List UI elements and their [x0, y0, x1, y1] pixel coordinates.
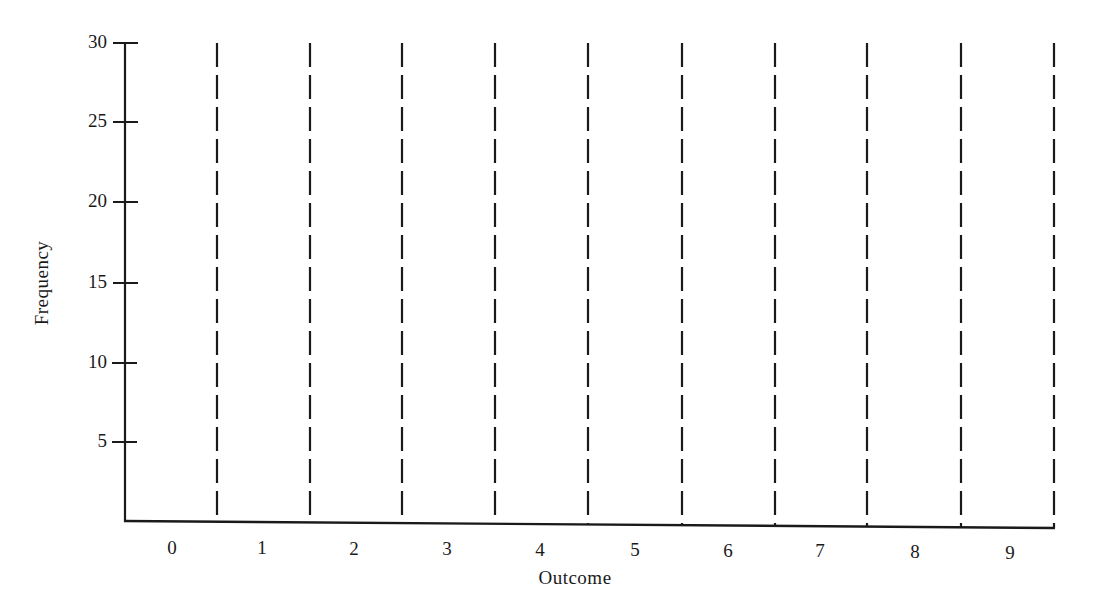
x-axis-line — [124, 521, 1055, 528]
x-tick-label-6: 6 — [713, 541, 743, 561]
y-tick-label-15: 15 — [67, 272, 107, 292]
x-tick-label-0: 0 — [157, 538, 187, 558]
x-tick-label-4: 4 — [525, 540, 555, 560]
y-tick-label-10: 10 — [67, 352, 107, 372]
chart-plot-area — [0, 0, 1094, 613]
x-tick-label-1: 1 — [247, 538, 277, 558]
y-tick-label-30: 30 — [67, 32, 107, 52]
x-tick-label-3: 3 — [432, 539, 462, 559]
bin-separator-lines — [217, 43, 1054, 528]
y-tick-label-20: 20 — [67, 191, 107, 211]
x-tick-label-8: 8 — [900, 542, 930, 562]
x-tick-label-9: 9 — [995, 543, 1025, 563]
x-tick-label-5: 5 — [620, 540, 650, 560]
y-tick-label-5: 5 — [67, 431, 107, 451]
x-axis-title: Outcome — [530, 568, 620, 588]
histogram-chart: 30 25 20 15 10 5 0 1 2 3 4 5 6 7 8 9 Out… — [0, 0, 1094, 613]
y-axis-title: Frequency — [32, 233, 52, 333]
x-tick-label-7: 7 — [805, 541, 835, 561]
x-tick-label-2: 2 — [339, 539, 369, 559]
y-tick-label-25: 25 — [67, 111, 107, 131]
